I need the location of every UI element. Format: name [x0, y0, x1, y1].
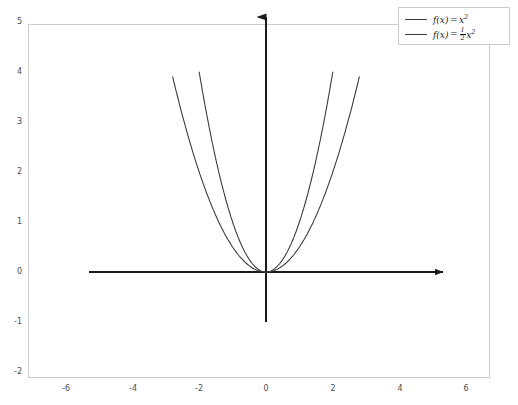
ytick-label: 3 — [0, 118, 22, 126]
legend-arg: (x) — [436, 15, 448, 25]
ytick-label: 0 — [0, 268, 22, 276]
legend-entry-x-squared: f(x)=x2 — [405, 12, 468, 27]
legend-coefficient-fraction: 12 — [460, 27, 466, 41]
xtick-label: -4 — [119, 385, 147, 393]
legend-equals: = — [448, 15, 459, 25]
ytick-label: -1 — [0, 318, 22, 326]
xtick-label: -2 — [185, 385, 213, 393]
ytick-label: -2 — [0, 368, 22, 376]
xtick-label: 2 — [319, 385, 347, 393]
legend-line-swatch — [405, 19, 427, 20]
xtick-label: -6 — [52, 385, 80, 393]
ytick-label: 1 — [0, 218, 22, 226]
xtick-label: 6 — [452, 385, 480, 393]
xtick-label: 0 — [252, 385, 280, 393]
ytick-label: 5 — [0, 18, 22, 26]
ytick-label: 2 — [0, 168, 22, 176]
legend-label-half-x-squared: f(x)=12x2 — [433, 28, 475, 42]
xtick-label: 4 — [386, 385, 414, 393]
chart-figure: 5 4 3 2 1 0 -1 -2 -6 -4 -2 0 2 4 6 f(x)=… — [0, 0, 518, 405]
plot-canvas — [0, 0, 518, 405]
legend-arg: (x) — [436, 29, 448, 39]
legend-equals: = — [448, 29, 459, 39]
chart-legend: f(x)=x2 f(x)=12x2 — [398, 7, 510, 45]
plot-frame — [29, 25, 490, 378]
fraction-denominator: 2 — [460, 35, 466, 42]
legend-entry-half-x-squared: f(x)=12x2 — [405, 27, 475, 42]
legend-line-swatch — [405, 34, 427, 35]
legend-label-x-squared: f(x)=x2 — [433, 14, 468, 25]
ytick-label: 4 — [0, 68, 22, 76]
legend-exponent: 2 — [464, 13, 468, 21]
legend-exponent: 2 — [471, 27, 475, 35]
